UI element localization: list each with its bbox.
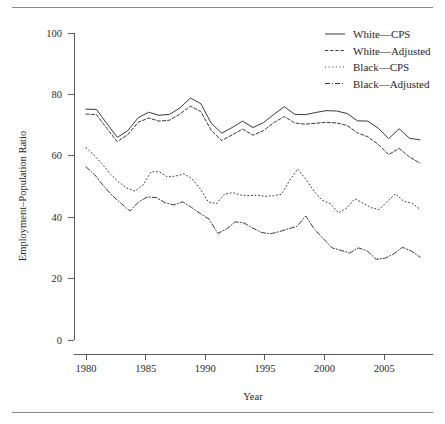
- x-tick-label: 2000: [314, 363, 335, 374]
- legend-label-1: White—Adjusted: [353, 45, 431, 57]
- x-axis-ticks: 198019851990199520002005: [76, 354, 395, 374]
- x-tick-label: 2005: [374, 363, 395, 374]
- figure-container: 020406080100 198019851990199520002005 Wh…: [0, 0, 445, 424]
- x-tick-label: 1990: [195, 363, 216, 374]
- x-tick-label: 1985: [135, 363, 156, 374]
- series-group: [86, 98, 420, 259]
- series-line-3: [86, 167, 420, 259]
- chart-legend: White—CPSWhite—AdjustedBlack—CPSBlack—Ad…: [325, 28, 431, 90]
- chart-plot-area: 020406080100 198019851990199520002005 Wh…: [0, 0, 445, 424]
- y-tick-label: 40: [52, 212, 63, 223]
- series-line-1: [86, 106, 420, 163]
- y-tick-label: 0: [57, 335, 62, 346]
- legend-label-0: White—CPS: [353, 28, 410, 40]
- y-tick-label: 100: [46, 28, 62, 39]
- legend-label-2: Black—CPS: [353, 61, 409, 73]
- x-tick-label: 1980: [76, 363, 97, 374]
- y-tick-label: 80: [52, 89, 63, 100]
- series-line-0: [86, 98, 420, 140]
- series-line-2: [86, 148, 420, 213]
- x-axis-title: Year: [243, 391, 263, 402]
- line-chart: 020406080100 198019851990199520002005 Wh…: [0, 0, 445, 424]
- legend-label-3: Black—Adjusted: [353, 78, 430, 90]
- x-tick-label: 1995: [254, 363, 275, 374]
- y-tick-label: 20: [52, 273, 63, 284]
- y-tick-label: 60: [52, 150, 63, 161]
- y-axis-ticks: 020406080100: [46, 28, 74, 346]
- y-axis-title: Employment–Population Ratio: [17, 131, 28, 261]
